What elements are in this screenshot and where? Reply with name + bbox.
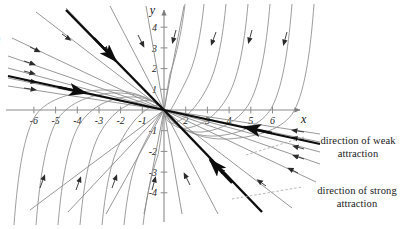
trajectory-curve	[124, 110, 164, 225]
eigenline-strong-arrow-upper	[94, 38, 116, 61]
trajectory-line	[164, 110, 316, 182]
flow-arrow	[76, 179, 80, 190]
x-tick-label: -4	[73, 115, 81, 126]
flow-arrow	[185, 175, 190, 185]
flow-arrow	[212, 32, 216, 43]
annotation-strong-line1: direction of strong	[304, 185, 410, 198]
flow-arrow	[290, 169, 298, 173]
y-tick-label: 4	[152, 22, 157, 33]
flow-arrow	[284, 32, 287, 43]
y-tick-label: 1	[152, 84, 157, 95]
flow-arrow	[112, 177, 116, 188]
x-tick-label: 5	[248, 115, 253, 126]
annotation-strong-line2: attraction	[304, 198, 410, 211]
flow-arrow	[249, 30, 252, 41]
lower-right-arrowheads	[40, 130, 304, 190]
eigenline-weak-right-branch	[164, 110, 320, 144]
x-tick-label: -5	[51, 115, 59, 126]
axis-group: -6 -5 -4 -3 -2 -1 2 3 4 5 6 4 3 2 1 -1 -…	[6, 3, 307, 222]
x-axis-label: x	[300, 112, 307, 126]
flow-arrow	[138, 35, 143, 45]
trajectory-curve	[164, 4, 204, 117]
x-tick-label: -2	[116, 115, 124, 126]
annotation-weak-line2: attraction	[306, 148, 410, 161]
annotation-weak-line1: direction of weak	[306, 135, 410, 148]
y-tick-label: -4	[149, 187, 157, 198]
x-tick-label: 6	[270, 115, 275, 126]
eigenline-strong-arrow-lower	[210, 160, 232, 183]
trajectory-line	[12, 38, 164, 110]
y-axis-label: y	[149, 3, 156, 17]
flow-arrow	[30, 47, 38, 51]
annotation-weak-attraction: direction of weak attraction	[306, 135, 410, 161]
annotation-strong-attraction: direction of strong attraction	[304, 185, 410, 211]
figure-canvas: )	[0, 0, 411, 229]
flow-arrow	[173, 30, 176, 41]
x-tick-label: -3	[95, 115, 103, 126]
trajectory-line	[164, 6, 184, 110]
eigenline-weak-arrow-right	[244, 127, 272, 133]
